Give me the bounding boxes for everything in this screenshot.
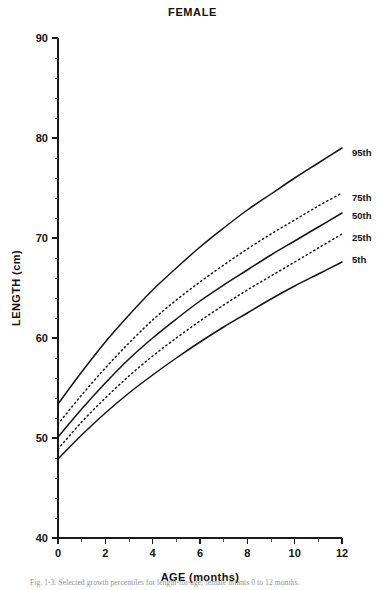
x-axis-tick-label: 8 <box>244 547 250 559</box>
y-axis-tick-label: 80 <box>36 132 48 144</box>
chart-plot-area: 405060708090024681012AGE (months)LENGTH … <box>0 0 385 590</box>
figure-caption-strip: Fig. 1-3. Selected growth percentiles fo… <box>0 579 385 590</box>
x-axis-tick-label: 6 <box>197 547 203 559</box>
percentile-label-25th: 25th <box>352 232 372 243</box>
y-axis-tick-label: 60 <box>36 332 48 344</box>
figure-caption: Fig. 1-3. Selected growth percentiles fo… <box>30 579 299 587</box>
percentile-label-75th: 75th <box>352 192 372 203</box>
y-axis-tick-label: 90 <box>36 32 48 44</box>
y-axis-tick-label: 40 <box>36 532 48 544</box>
y-axis-tick-label: 50 <box>36 432 48 444</box>
percentile-label-50th: 50th <box>352 210 372 221</box>
percentile-curve-5th <box>58 262 342 459</box>
percentile-label-5th: 5th <box>352 254 366 265</box>
x-axis-tick-label: 0 <box>55 547 61 559</box>
y-axis-title: LENGTH (cm) <box>10 250 22 326</box>
growth-chart: FEMALE 405060708090024681012AGE (months)… <box>0 0 385 590</box>
x-axis-tick-label: 12 <box>336 547 348 559</box>
x-axis-tick-label: 2 <box>102 547 108 559</box>
x-axis-tick-label: 10 <box>289 547 301 559</box>
percentile-curve-95th <box>58 148 342 404</box>
percentile-curve-75th <box>58 193 342 424</box>
percentile-label-95th: 95th <box>352 147 372 158</box>
y-axis-tick-label: 70 <box>36 232 48 244</box>
x-axis-tick-label: 4 <box>150 547 157 559</box>
